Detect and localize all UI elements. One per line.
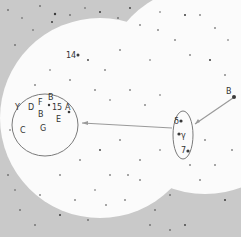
label-a: A bbox=[65, 103, 71, 112]
star-a bbox=[68, 111, 71, 114]
label-y: Y bbox=[14, 103, 20, 112]
label-g: G bbox=[40, 124, 46, 133]
label-e: E bbox=[56, 115, 61, 124]
label-b-right: B bbox=[226, 87, 232, 96]
label-f: F bbox=[38, 98, 43, 107]
label-14: 14 bbox=[66, 51, 76, 60]
star-chart: 14 Y D F B 15 A B E C G δ γ 7 B bbox=[0, 0, 241, 237]
star-delta bbox=[179, 119, 182, 122]
label-gamma: γ bbox=[181, 131, 186, 140]
label-delta: δ bbox=[174, 117, 179, 126]
star-14 bbox=[77, 54, 80, 57]
star-chart-svg: 14 Y D F B 15 A B E C G δ γ 7 B bbox=[0, 0, 241, 237]
label-d: D bbox=[28, 103, 34, 112]
label-7: 7 bbox=[181, 146, 186, 155]
star-b-right bbox=[232, 95, 236, 99]
label-b-mid: B bbox=[38, 110, 44, 119]
label-15: 15 bbox=[52, 103, 62, 112]
label-c: C bbox=[20, 126, 26, 135]
label-b-top: B bbox=[48, 93, 54, 102]
star-7 bbox=[186, 149, 189, 152]
star-15 bbox=[48, 104, 50, 106]
